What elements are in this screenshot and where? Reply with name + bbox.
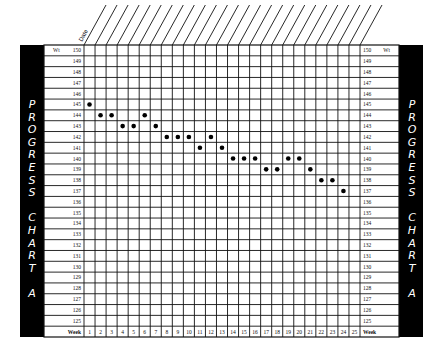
right-title-letter: R (408, 249, 416, 262)
left-title-letter: C (28, 211, 36, 224)
data-point-dot (187, 135, 192, 140)
date-diagonal-line (239, 5, 261, 45)
date-diagonal-line (338, 5, 360, 45)
left-weight-tick: 136 (73, 199, 82, 205)
left-weight-tick: 126 (73, 307, 82, 313)
data-point-dot (253, 156, 258, 161)
right-weight-tick: 138 (363, 177, 372, 183)
week-tick: 19 (285, 329, 291, 335)
date-diagonal-line (139, 5, 161, 45)
date-diagonal-line (84, 5, 106, 45)
left-title-letter: A (27, 287, 36, 300)
right-title-letter: A (407, 287, 416, 300)
week-tick: 14 (230, 329, 236, 335)
data-point-dot (308, 167, 313, 172)
left-weight-tick: 131 (73, 253, 82, 259)
date-diagonal-line (272, 5, 294, 45)
left-weight-tick: 142 (73, 134, 82, 140)
data-point-dot (176, 135, 181, 140)
right-weight-tick: 150 (363, 47, 372, 53)
week-tick: 13 (219, 329, 225, 335)
date-diagonal-line (250, 5, 272, 45)
date-diagonal-line (183, 5, 205, 45)
right-weight-tick: 129 (363, 274, 372, 280)
left-weight-tick: 144 (73, 112, 82, 118)
date-header-diagonals (84, 5, 382, 45)
week-tick: 21 (308, 329, 314, 335)
left-weight-tick: 138 (73, 177, 82, 183)
left-wt-label: Wt (53, 47, 60, 53)
week-tick: 5 (132, 329, 135, 335)
right-title-letter: R (408, 111, 416, 124)
left-weight-tick: 145 (73, 101, 82, 107)
data-point-dot (231, 156, 236, 161)
left-title-letter: A (27, 237, 36, 250)
right-weight-tick: 136 (363, 199, 372, 205)
left-weight-tick: 134 (73, 220, 82, 226)
data-point-dot (209, 135, 214, 140)
left-title-bar: PROGRESSCHARTA (20, 45, 44, 337)
right-title-letter: S (409, 186, 416, 199)
week-tick: 20 (297, 329, 303, 335)
right-weight-tick: 130 (363, 264, 372, 270)
right-title-letter: O (408, 123, 417, 136)
right-weight-tick: 135 (363, 210, 372, 216)
week-tick: 3 (110, 329, 113, 335)
date-diagonal-line (128, 5, 150, 45)
date-diagonal-line (194, 5, 216, 45)
right-weight-tick: 128 (363, 285, 372, 291)
date-header-label: Date (78, 28, 90, 43)
right-title-letter: S (409, 174, 416, 187)
data-point-dot (297, 156, 302, 161)
week-tick: 2 (99, 329, 102, 335)
left-week-label: Week (68, 329, 82, 335)
week-tick: 24 (341, 329, 347, 335)
data-point-dot (264, 167, 269, 172)
date-diagonal-line (117, 5, 139, 45)
right-week-label: Week (363, 329, 377, 335)
left-title-letter: R (28, 249, 36, 262)
right-weight-tick: 126 (363, 307, 372, 313)
chart-grid (44, 45, 399, 337)
left-title-letter: R (28, 111, 36, 124)
left-weight-tick: 135 (73, 210, 82, 216)
date-diagonal-line (327, 5, 349, 45)
right-title-bar: PROGRESSCHARTA (399, 45, 423, 337)
left-weight-tick: 148 (73, 69, 82, 75)
week-tick: 8 (165, 329, 168, 335)
week-tick: 7 (154, 329, 157, 335)
right-title-letter: R (408, 148, 416, 161)
right-weight-tick: 131 (363, 253, 372, 259)
right-weight-tick: 133 (363, 231, 372, 237)
week-tick: 6 (143, 329, 146, 335)
left-weight-tick: 140 (73, 156, 82, 162)
week-tick: 9 (176, 329, 179, 335)
date-diagonal-line (360, 5, 382, 45)
left-weight-tick: 127 (73, 296, 82, 302)
week-tick: 11 (197, 329, 203, 335)
week-tick: 10 (186, 329, 192, 335)
grid-frame (44, 45, 399, 337)
date-diagonal-line (172, 5, 194, 45)
right-title-letter: E (409, 161, 416, 174)
right-weight-tick: 149 (363, 58, 372, 64)
right-weight-tick: 142 (363, 134, 372, 140)
left-weight-tick: 129 (73, 274, 82, 280)
right-title-letter: G (408, 136, 417, 149)
week-tick: 15 (241, 329, 247, 335)
right-weight-tick: 137 (363, 188, 372, 194)
right-weight-tick: 148 (363, 69, 372, 75)
week-tick: 16 (252, 329, 258, 335)
right-title-letter: H (408, 224, 416, 237)
right-title-letter: A (407, 237, 416, 250)
data-point-dot (242, 156, 247, 161)
left-title-letter: S (29, 186, 36, 199)
date-diagonal-line (316, 5, 338, 45)
data-point-dot (142, 113, 147, 118)
date-diagonal-line (216, 5, 238, 45)
right-weight-tick: 145 (363, 101, 372, 107)
week-tick: 23 (330, 329, 336, 335)
left-weight-tick: 139 (73, 166, 82, 172)
week-tick: 17 (263, 329, 269, 335)
data-point-dot (330, 178, 335, 183)
